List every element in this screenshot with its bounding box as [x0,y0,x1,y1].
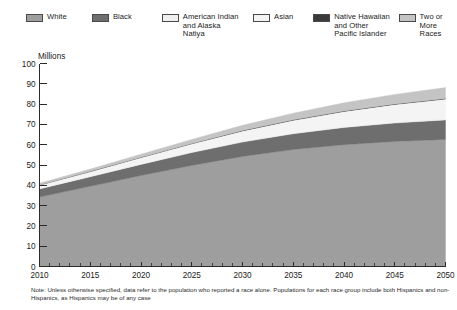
y-tick-label: 10 [26,242,36,251]
race-projection-area-chart-figure: White Black American Indian and Alaska N… [0,0,457,310]
y-tick-label: 30 [26,202,36,211]
legend-label-two-or-more-races: Two or More Races [420,13,443,39]
legend-item-american-indian-alaska-native[interactable]: American Indian and Alaska Natiya [162,13,253,39]
legend-swatch-two-or-more-races-icon [399,14,416,22]
x-tick-label: 2035 [284,271,303,280]
stacked-area-plot: 1009080706050403020100 20102015202020252… [0,50,457,282]
y-tick-label: 40 [26,181,36,190]
x-tick-label: 2030 [233,271,252,280]
legend-item-black[interactable]: Black [92,13,162,22]
x-tick-label: 2025 [183,271,202,280]
area-series-1 [40,139,446,266]
legend-item-asian[interactable]: Asian [253,13,313,22]
y-axis-unit-label: Millions [38,52,65,61]
legend-label-american-indian-alaska-native: American Indian and Alaska Natiya [183,13,239,39]
legend-swatch-black-icon [92,14,109,22]
y-tick-label: 90 [26,80,36,89]
legend-swatch-white-icon [26,14,43,22]
legend-swatch-native-hawaiian-pacific-islander-icon [313,14,330,22]
x-tick-label: 2015 [81,271,100,280]
y-tick-label: 100 [22,60,36,69]
area-series-group [40,88,446,267]
legend-swatch-american-indian-alaska-native-icon [162,14,179,22]
legend-swatch-asian-icon [253,14,270,22]
legend-item-native-hawaiian-pacific-islander[interactable]: Native Hawaiian and Other Pacific Island… [313,13,398,39]
legend-item-two-or-more-races[interactable]: Two or More Races [399,13,451,39]
plot-area: 1009080706050403020100 20102015202020252… [0,50,457,282]
y-tick-label: 70 [26,120,36,129]
x-tick-label: 2040 [335,271,354,280]
legend-item-white[interactable]: White [26,13,92,22]
x-tick-label: 2010 [30,271,49,280]
legend-label-asian: Asian [274,13,293,22]
y-tick-label: 60 [26,141,36,150]
x-tick-label: 2050 [436,271,455,280]
chart-footnote: Note: Unless otherwise specified, data r… [31,286,451,302]
legend-label-native-hawaiian-pacific-islander: Native Hawaiian and Other Pacific Island… [334,13,390,39]
x-tick-label: 2020 [132,271,151,280]
y-tick-label: 50 [26,161,36,170]
y-tick-label: 80 [26,100,36,109]
y-tick-label: 20 [26,222,36,231]
legend-label-black: Black [113,13,132,22]
legend-label-white: White [47,13,67,22]
x-tick-label: 2045 [386,271,405,280]
